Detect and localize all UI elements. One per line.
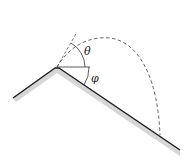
- projectile-diagram: θ φ: [0, 0, 195, 167]
- theta-arc: [71, 43, 85, 67]
- projectile-trajectory: [57, 38, 160, 135]
- launch-direction-line: [57, 32, 77, 67]
- phi-arc: [84, 67, 89, 85]
- theta-label: θ: [84, 45, 91, 58]
- phi-label: φ: [91, 72, 99, 85]
